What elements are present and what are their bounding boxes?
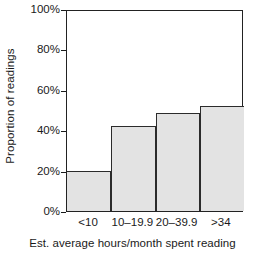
y-tick-mark xyxy=(61,212,66,213)
x-tick-label: 20–39.9 xyxy=(155,215,199,229)
y-tick-label: 80% xyxy=(24,45,60,57)
bar xyxy=(111,126,155,211)
x-tick-label: <10 xyxy=(66,215,110,229)
x-axis-title: Est. average hours/month spent reading xyxy=(0,237,265,249)
bar-series xyxy=(67,11,242,211)
y-axis-title: Proportion of readings xyxy=(0,0,20,212)
bar-chart-figure: Proportion of readings 0%20%40%60%80%100… xyxy=(0,0,265,263)
y-tick-label: 0% xyxy=(24,206,60,218)
y-axis-title-text: Proportion of readings xyxy=(4,48,16,163)
y-tick-label: 60% xyxy=(24,85,60,97)
x-tick-label: >34 xyxy=(199,215,243,229)
y-tick-label: 40% xyxy=(24,125,60,137)
x-tick-label: 10–19.9 xyxy=(110,215,154,229)
bar xyxy=(156,113,200,211)
y-tick-label: 20% xyxy=(24,166,60,178)
y-tick-label: 100% xyxy=(24,4,60,16)
plot-area xyxy=(66,10,243,212)
y-axis-tick-labels: 0%20%40%60%80%100% xyxy=(22,0,60,263)
bar xyxy=(67,171,111,211)
x-axis-title-text: Est. average hours/month spent reading xyxy=(29,237,235,249)
x-axis-tick-labels: <1010–19.920–39.9>34 xyxy=(66,215,243,231)
bar xyxy=(200,106,244,211)
